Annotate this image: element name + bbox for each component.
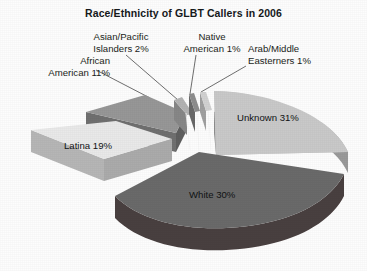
leader-line-arab-middle-eastern [201,66,246,92]
slice-label-white: White 30% [189,189,235,200]
slice-label-arab-middle-eastern: Arab/Middle Easterners 1% [248,43,360,66]
slice-label-unknown: Unknown 31% [237,112,299,123]
slice-label-native-american: Native American 1% [172,31,252,54]
slice-label-african-american: African American 11% [6,55,110,78]
slice-separators [186,111,211,151]
leader-line-asian-pacific [126,55,178,100]
pie-chart-figure: Race/Ethnicity of GLBT Callers in 2006 [0,0,367,271]
slice-label-latina: Latina 19% [64,140,112,151]
slice-label-asian-pacific: Asian/Pacific Islanders 2% [74,31,168,54]
pie-slice-native-american [189,93,200,132]
leader-line-native-american [190,55,196,94]
pie-slice-arab-middle-eastern [200,92,212,131]
